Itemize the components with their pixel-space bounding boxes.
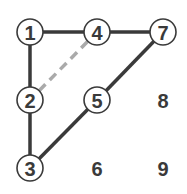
node-8: 8 [157,90,168,112]
edge-3-5 [39,109,88,158]
node-label: 4 [91,22,103,44]
node-label: 8 [157,90,168,112]
node-label: 7 [157,22,168,44]
node-9: 9 [157,158,168,180]
node-label: 3 [24,158,35,180]
edge-5-7 [106,41,154,90]
node-5: 5 [84,87,110,113]
graph-diagram: 147258369 [0,0,187,194]
node-label: 9 [157,158,168,180]
node-2: 2 [17,87,43,113]
node-4: 4 [84,19,110,45]
node-1: 1 [17,19,43,45]
edge-2-4-dashed [39,41,88,90]
node-label: 5 [91,90,102,112]
node-6: 6 [91,158,102,180]
node-3: 3 [17,155,43,181]
node-label: 2 [24,90,35,112]
node-label: 1 [24,22,35,44]
node-label: 6 [91,158,102,180]
node-7: 7 [150,19,176,45]
